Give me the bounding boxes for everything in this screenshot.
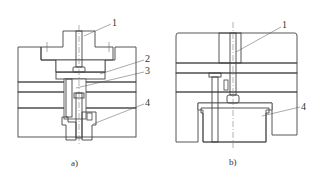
figure-b: 1 4 b) (176, 19, 306, 167)
b-callout-1: 1 (282, 19, 287, 30)
a-leader-2 (100, 60, 144, 74)
b-leader-1 (236, 27, 281, 52)
b-top-plate (176, 33, 297, 63)
b-third-plate (176, 73, 297, 92)
a-callout-1: 1 (112, 17, 117, 28)
b-central-pin-1 (224, 33, 239, 103)
b-callout-4: 4 (301, 101, 306, 112)
b-second-plate (176, 63, 297, 73)
a-callout-3: 3 (145, 65, 150, 76)
a-caption: a) (71, 158, 78, 168)
a-bore (64, 79, 86, 119)
a-flange-boss (41, 31, 113, 60)
a-callout-4: 4 (145, 97, 150, 108)
diagram-canvas: 1 2 3 4 a) (0, 0, 322, 177)
a-callout-2: 2 (145, 53, 150, 64)
b-caption: b) (229, 157, 237, 167)
figure-a: 1 2 3 4 a) (18, 17, 150, 168)
a-plate-2 (56, 72, 105, 79)
a-leader-1 (84, 24, 111, 36)
b-cavity (198, 103, 272, 142)
a-recess-cavity (56, 60, 105, 72)
